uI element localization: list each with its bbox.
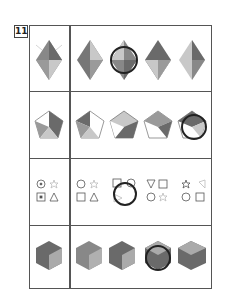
diamond-option-4[interactable]	[179, 40, 205, 80]
diamond-option-2[interactable]	[111, 40, 137, 80]
pentagon-option-4[interactable]	[178, 111, 206, 139]
diamond-option-3[interactable]	[145, 40, 171, 80]
figures-canvas	[0, 0, 225, 306]
hexagon-given	[36, 241, 62, 270]
hexagon-option-1[interactable]	[76, 241, 102, 270]
pentagon-given	[35, 111, 63, 138]
answer-circle	[114, 183, 136, 205]
pentagon-option-3[interactable]	[144, 111, 172, 138]
symbols-option-4[interactable]	[182, 180, 205, 201]
diamond-given	[36, 40, 62, 80]
pentagon-option-2[interactable]	[110, 111, 138, 138]
diamond-option-1[interactable]	[77, 40, 103, 80]
symbols-option-2[interactable]	[113, 179, 136, 205]
symbols-option-3[interactable]	[147, 180, 167, 201]
hexagon-option-3[interactable]	[145, 241, 171, 270]
hexagon-option-4[interactable]	[178, 241, 206, 270]
symbols-given	[37, 180, 58, 201]
hexagon-option-2[interactable]	[109, 241, 135, 270]
pentagon-option-1[interactable]	[76, 111, 104, 138]
symbols-option-1[interactable]	[77, 180, 98, 201]
